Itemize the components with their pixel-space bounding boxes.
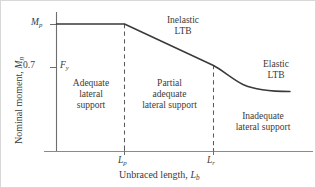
annotation-inelastic-ltb-line1: Inelastic [167, 15, 199, 25]
annotation-adequate-line2: lateral [79, 89, 103, 99]
x-axis-title: Unbraced length, Lb [119, 169, 200, 183]
annotation-partial-adequate-lateral-support: Partial adequate lateral support [128, 78, 211, 112]
annotation-elastic-ltb-line1: Elastic [263, 59, 289, 69]
x-axis-title-text: Unbraced length, [119, 169, 190, 180]
nominal-moment-vs-unbraced-length-chart: Nominal moment, Mn Mp 0.7 Fy Lp Lr Unbra… [0, 0, 316, 188]
annotation-adequate-line3: support [77, 100, 106, 110]
annotation-elastic-ltb-line2: LTB [267, 70, 284, 80]
y-tick-label-07: 0.7 [23, 60, 35, 71]
annotation-partial-line1: Partial [157, 78, 182, 88]
y-tick-label-mp-symbol: M [31, 17, 39, 27]
x-tick-label-lr-subscript: r [212, 159, 215, 166]
x-tick-label-lp-subscript: p [123, 159, 126, 166]
y-axis-title-text: Nominal moment, [13, 69, 24, 144]
annotation-inelastic-ltb: Inelastic LTB [147, 15, 219, 37]
y-tick-label-mp-subscript: p [39, 21, 42, 28]
y-tick-label-fy: Fy [60, 60, 69, 72]
x-axis-title-subscript: b [196, 174, 200, 182]
annotation-elastic-ltb: Elastic LTB [245, 59, 307, 81]
y-tick-label-mp: Mp [31, 17, 42, 29]
annotation-inadequate-line1: Inadequate [242, 111, 284, 121]
annotation-adequate-lateral-support: Adequate lateral support [59, 78, 123, 112]
annotation-inadequate-line2: lateral support [236, 122, 291, 132]
x-tick-label-lr: Lr [207, 155, 215, 167]
annotation-partial-line3: lateral support [142, 100, 197, 110]
annotation-inelastic-ltb-line2: LTB [174, 26, 191, 36]
annotation-adequate-line1: Adequate [73, 78, 109, 88]
annotation-partial-line2: adequate [153, 89, 187, 99]
y-tick-label-fy-subscript: y [66, 64, 69, 71]
y-tick-label-07-value: 0.7 [23, 60, 35, 70]
annotation-inadequate-lateral-support: Inadequate lateral support [219, 111, 307, 133]
x-tick-label-lp: Lp [118, 155, 127, 167]
